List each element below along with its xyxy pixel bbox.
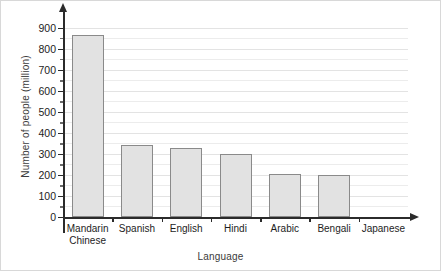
gridline: [63, 80, 408, 81]
y-axis-line: [63, 9, 65, 233]
x-axis-arrow-icon: [410, 213, 419, 221]
x-tick: [112, 217, 113, 222]
gridline: [63, 112, 408, 113]
x-axis-title: Language: [1, 251, 440, 262]
y-tick-minor: [60, 101, 63, 102]
y-axis-arrow-icon: [59, 3, 67, 12]
y-axis-title: Number of people (million): [20, 27, 31, 207]
x-tick: [162, 217, 163, 222]
y-tick: [58, 28, 63, 29]
y-tick-label: 500: [38, 106, 56, 118]
x-tick-label: English: [162, 223, 211, 235]
y-tick-label: 600: [38, 85, 56, 97]
gridline: [63, 101, 408, 102]
y-tick: [58, 70, 63, 71]
y-tick-minor: [60, 80, 63, 81]
gridline: [63, 28, 408, 29]
x-tick: [260, 217, 261, 222]
x-tick: [359, 217, 360, 222]
x-tick: [211, 217, 212, 222]
y-tick-minor: [60, 59, 63, 60]
y-tick-label: 300: [38, 148, 56, 160]
gridline: [63, 91, 408, 92]
y-tick-label: 700: [38, 64, 56, 76]
y-tick-label: 900: [38, 22, 56, 34]
gridline: [63, 70, 408, 71]
gridline: [63, 122, 408, 123]
y-tick-minor: [60, 38, 63, 39]
x-tick-label: Hindi: [211, 223, 260, 235]
bar: [318, 175, 350, 217]
x-tick-label: Mandarin Chinese: [63, 223, 112, 247]
x-tick-label: Arabic: [260, 223, 309, 235]
bar: [121, 145, 153, 217]
y-tick-label: 200: [38, 169, 56, 181]
chart-figure: Number of people (million) 0100200300400…: [0, 0, 441, 271]
y-tick-label: 400: [38, 127, 56, 139]
gridline: [63, 133, 408, 134]
y-tick-label: 0: [50, 211, 56, 223]
y-tick-label: 800: [38, 43, 56, 55]
gridline: [63, 49, 408, 50]
y-tick-minor: [60, 122, 63, 123]
bar: [220, 154, 252, 217]
y-tick-minor: [60, 164, 63, 165]
y-tick: [58, 175, 63, 176]
gridline: [63, 143, 408, 144]
bar: [170, 148, 202, 217]
x-tick-label: Bengali: [309, 223, 358, 235]
x-tick: [309, 217, 310, 222]
y-tick-minor: [60, 143, 63, 144]
x-tick-label: Japanese: [359, 223, 408, 235]
y-tick: [58, 49, 63, 50]
bar: [72, 35, 104, 217]
gridline: [63, 59, 408, 60]
y-tick: [58, 196, 63, 197]
x-tick-label: Spanish: [112, 223, 161, 235]
y-tick: [58, 91, 63, 92]
y-tick-label: 100: [38, 190, 56, 202]
gridline: [63, 38, 408, 39]
y-tick: [58, 217, 63, 218]
y-tick: [58, 133, 63, 134]
y-tick-minor: [60, 185, 63, 186]
bar: [269, 174, 301, 217]
y-tick-minor: [60, 206, 63, 207]
plot-area: 0100200300400500600700800900 Mandarin Ch…: [63, 17, 408, 217]
y-tick: [58, 154, 63, 155]
y-tick: [58, 112, 63, 113]
